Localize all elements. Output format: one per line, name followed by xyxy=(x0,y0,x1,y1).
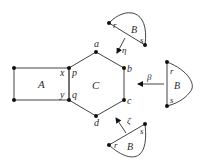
label-right-r: r xyxy=(170,66,174,76)
vertex-q xyxy=(67,98,71,102)
label-q: q xyxy=(72,89,77,100)
label-bottom-b: B xyxy=(127,141,133,152)
gluing-diagram: A x y C a b c d p q r B s η r B s xyxy=(0,0,201,167)
piece-b-bottom: r B s ζ xyxy=(107,116,147,157)
arrow-zeta xyxy=(116,118,126,133)
vertex-b xyxy=(122,66,126,70)
label-c: c xyxy=(127,95,132,106)
vertex-right-r xyxy=(165,60,169,64)
label-y: y xyxy=(59,89,65,100)
label-right-b: B xyxy=(174,80,180,91)
label-top-r: r xyxy=(113,20,117,30)
label-right-s: s xyxy=(170,95,174,105)
label-a: a xyxy=(94,38,99,49)
piece-b-top: r B s η xyxy=(107,13,147,55)
label-x: x xyxy=(59,67,65,78)
piece-b-right: r B s β xyxy=(138,60,192,108)
label-b: b xyxy=(127,63,132,74)
label-p: p xyxy=(71,67,77,78)
vertex-a xyxy=(94,50,98,54)
label-top-s: s xyxy=(140,35,144,45)
rectangle-a: A x y xyxy=(12,66,69,102)
label-eta: η xyxy=(122,45,127,55)
label-top-b: B xyxy=(131,24,137,35)
vertex-top-r xyxy=(107,21,111,25)
label-bottom-r: r xyxy=(114,140,118,150)
vertex-right-s xyxy=(165,104,169,108)
label-zeta: ζ xyxy=(127,116,132,126)
region-label-c: C xyxy=(92,79,100,91)
region-label-a: A xyxy=(37,78,45,90)
label-bottom-s: s xyxy=(140,126,144,136)
vertex-bottom-s xyxy=(143,122,147,126)
vertex-a-top-left xyxy=(12,66,16,70)
vertex-bottom-r xyxy=(107,143,111,147)
vertex-top-s xyxy=(143,43,147,47)
vertex-p xyxy=(67,66,71,70)
vertex-c xyxy=(122,98,126,102)
label-beta: β xyxy=(146,72,152,82)
label-d: d xyxy=(94,117,100,128)
vertex-a-bottom-left xyxy=(12,98,16,102)
